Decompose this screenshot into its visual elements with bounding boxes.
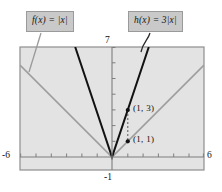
callout-f-text: f(x) = |x| <box>32 15 68 25</box>
x-axis-tick-label-below: -1 <box>104 172 112 182</box>
x-axis-min-label: -6 <box>2 150 10 160</box>
callout-h-of-x: h(x) = 3|x| <box>128 11 183 32</box>
point-marker-1-1 <box>126 139 130 143</box>
callout-h-text: h(x) = 3|x| <box>134 15 177 25</box>
y-axis-max-label: 7 <box>105 35 110 45</box>
callout-f-of-x: f(x) = |x| <box>26 11 74 32</box>
point-label-1-1: (1, 1) <box>133 134 154 144</box>
point-marker-1-3 <box>126 108 130 112</box>
point-label-1-3: (1, 3) <box>133 103 154 113</box>
x-axis-max-label: 6 <box>207 150 212 160</box>
